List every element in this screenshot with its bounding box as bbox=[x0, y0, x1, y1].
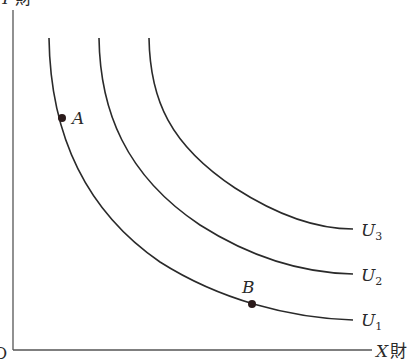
indifference-curve-u2 bbox=[99, 38, 353, 274]
indifference-curve-u1 bbox=[49, 38, 353, 320]
curve-label-u1: U1 bbox=[361, 310, 382, 333]
point-b-label: B bbox=[241, 277, 255, 297]
curve-label-u3: U3 bbox=[361, 220, 382, 243]
origin-label: O bbox=[0, 344, 7, 363]
point-a-label: A bbox=[70, 108, 84, 128]
y-axis-label: Y財 bbox=[0, 0, 32, 8]
indifference-curve-u3 bbox=[149, 38, 353, 229]
point-b-marker bbox=[248, 300, 256, 308]
point-a-marker bbox=[58, 114, 66, 122]
indifference-curve-diagram: Y財 O X財 U3 U2 U1 A B bbox=[0, 0, 420, 364]
curve-label-u2: U2 bbox=[361, 265, 382, 288]
x-axis-label: X財 bbox=[374, 341, 407, 361]
